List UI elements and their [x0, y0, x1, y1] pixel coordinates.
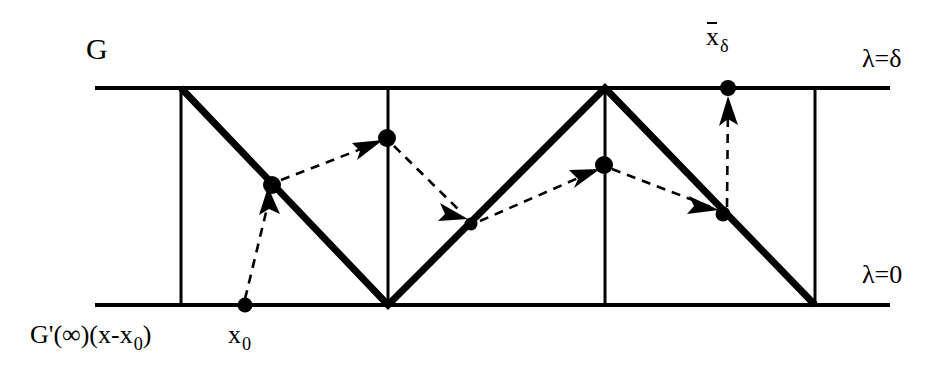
label-gprime-tail: ): [143, 320, 152, 349]
label-xbar-base: x: [706, 24, 719, 50]
label-gprime-head: G'(∞)(x-x: [30, 320, 133, 349]
label-x0-base: x: [228, 320, 241, 349]
label-xbar-subscript: δ: [719, 36, 729, 56]
point-iterate-3: [465, 218, 478, 231]
point-iterate-4: [595, 156, 613, 174]
point-iterate-1: [263, 176, 281, 194]
point-xbar-delta: [720, 80, 736, 96]
label-lambda-delta: λ=δ: [862, 46, 902, 72]
iterate-points: [238, 80, 737, 313]
point-x0: [238, 298, 253, 313]
zigzag-path: [181, 88, 815, 305]
label-G: G: [86, 34, 108, 64]
point-iterate-5: [716, 207, 731, 222]
label-xbar-delta: xδ: [706, 24, 729, 55]
arrow-iterate-2-to-iterate-3-line: [394, 146, 461, 212]
point-iterate-2: [378, 129, 396, 147]
arrowheads: [259, 96, 738, 221]
arrowhead-4: [569, 169, 600, 188]
label-gprime-formula: G'(∞)(x-x0): [30, 322, 151, 353]
figure-root: G λ=δ λ=0 xδ x0 G'(∞)(x-x0): [0, 0, 952, 386]
label-x0: x0: [228, 322, 251, 353]
dashed-arrows: [245, 102, 728, 299]
label-lambda-zero: λ=0: [862, 262, 902, 288]
label-x0-subscript: 0: [241, 334, 251, 354]
label-gprime-subscript: 0: [133, 334, 143, 354]
arrow-x0-to-iterate-1-line: [245, 196, 270, 299]
